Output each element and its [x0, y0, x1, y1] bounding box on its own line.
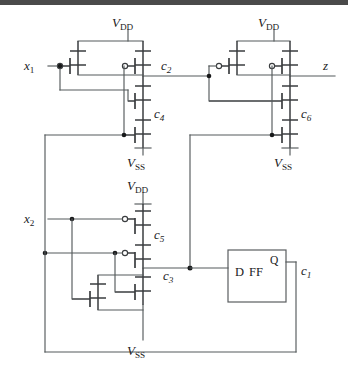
wire-c3-to-top-right-gates [190, 66, 272, 265]
wire-c1-feedback [45, 135, 296, 352]
label-c1: c1 [301, 263, 311, 280]
vdd-rail-top-right [237, 30, 290, 41]
label-x1: x1 [23, 58, 35, 75]
pmos-mid-lower [45, 238, 151, 268]
pmos-top-right-b [269, 41, 298, 76]
nmos-top-left-lower [124, 113, 151, 148]
vdd-rail-top-left [78, 30, 143, 41]
label-vdd-mid: VDD [127, 178, 149, 195]
label-c2: c2 [161, 58, 172, 75]
label-c3: c3 [163, 268, 174, 285]
vss-rail-top-left [135, 148, 151, 155]
label-vss-left: VSS [127, 155, 145, 172]
label-c6: c6 [301, 106, 312, 123]
cmos-schematic-canvas: x1 VDD VDD VDD VSS VSS VSS c2 [0, 0, 348, 369]
nmos-top-right-upper [209, 76, 298, 113]
junction-dot [122, 133, 127, 138]
nmos-bottom-right [115, 253, 151, 305]
label-c4: c4 [154, 106, 165, 123]
label-vdd-top-right: VDD [258, 15, 280, 32]
junction-dot [207, 74, 212, 79]
label-z: z [322, 58, 328, 73]
label-c5: c5 [154, 227, 165, 244]
flipflop-q-label: Q [270, 254, 279, 266]
label-x2: x2 [23, 211, 35, 228]
pmos-mid-upper [48, 204, 151, 238]
flipflop-body-label: DFF [235, 265, 263, 279]
nmos-bottom-left [72, 219, 106, 310]
pmos-top-right-a [209, 41, 245, 76]
pmos-top-left-b [122, 41, 151, 76]
label-vss-bottom: VSS [127, 343, 145, 360]
vss-rail-top-right [282, 148, 298, 155]
nmos-top-left-upper [128, 76, 151, 113]
pmos-top-left-a [48, 41, 86, 75]
junction-dot [58, 64, 63, 69]
junction-dot [270, 133, 275, 138]
circuit-figure: x1 VDD VDD VDD VSS VSS VSS c2 [0, 0, 348, 369]
wire-c1-to-top-left-gates [45, 66, 124, 135]
label-vss-right: VSS [274, 155, 292, 172]
nmos-top-right-lower [272, 113, 298, 148]
label-vdd-top-left: VDD [112, 15, 134, 32]
